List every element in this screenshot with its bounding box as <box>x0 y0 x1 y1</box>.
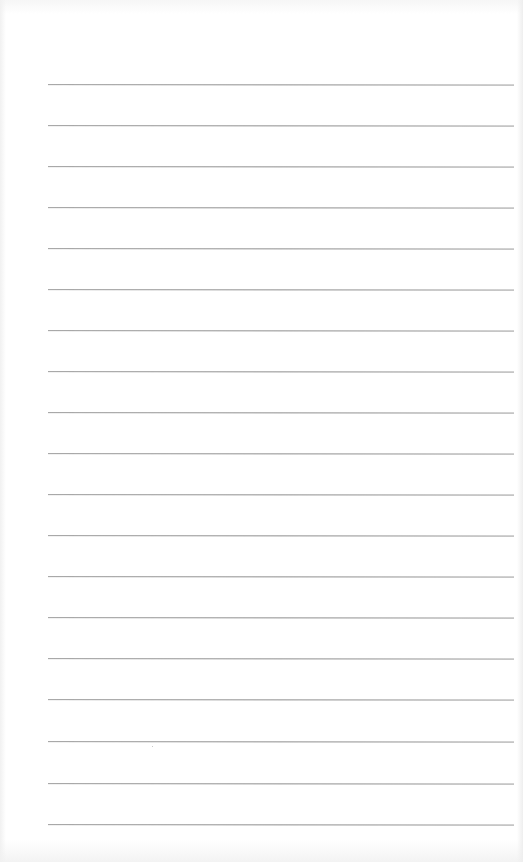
ruled-line <box>48 289 514 290</box>
ruled-line <box>48 371 514 372</box>
ruled-line <box>48 330 514 331</box>
ruled-line <box>48 741 514 742</box>
ruled-line <box>48 617 514 618</box>
ruled-line <box>48 166 514 167</box>
ruled-paper-page <box>0 0 523 862</box>
page-right-edge-shadow <box>517 0 523 862</box>
ruled-line <box>48 699 514 700</box>
ruled-line <box>48 494 514 495</box>
page-left-edge-shadow <box>0 0 6 862</box>
ruled-line <box>48 248 514 249</box>
ruled-line <box>48 576 514 577</box>
ruled-line <box>48 453 514 454</box>
ruled-line <box>48 207 514 208</box>
ruled-line <box>48 783 514 784</box>
ruled-line <box>48 412 514 413</box>
ruled-line <box>48 658 514 659</box>
ruled-line <box>48 824 514 825</box>
ruled-line <box>48 84 514 85</box>
ruled-line <box>48 125 514 126</box>
paper-speck <box>152 746 153 747</box>
ruled-line <box>48 535 514 536</box>
